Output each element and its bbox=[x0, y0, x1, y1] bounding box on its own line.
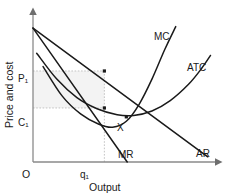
x-tick-label-q1: q₁ bbox=[80, 169, 90, 180]
marker-mc-atc-cross bbox=[125, 115, 128, 118]
marker-ar-at-q1 bbox=[103, 69, 106, 72]
economics-diagram: Price and cost Output O P₁ C₁ q₁ MC ATC … bbox=[0, 0, 230, 196]
marker-atc-at-q1 bbox=[103, 106, 106, 109]
curve-label-mr: MR bbox=[118, 149, 134, 160]
origin-label: O bbox=[22, 168, 30, 180]
curve-label-atc: ATC bbox=[187, 62, 206, 73]
curve-label-mc: MC bbox=[154, 31, 170, 42]
y-tick-label-c1: C₁ bbox=[18, 117, 29, 128]
y-axis-label: Price and cost bbox=[3, 61, 15, 128]
data-point-markers bbox=[103, 69, 128, 118]
chart-canvas: Price and cost Output O P₁ C₁ q₁ MC ATC … bbox=[0, 0, 230, 196]
y-tick-label-p1: P₁ bbox=[18, 73, 29, 84]
annotation-x: X bbox=[117, 122, 124, 133]
curve-label-ar: AR bbox=[196, 148, 210, 159]
x-axis-label: Output bbox=[89, 181, 121, 193]
